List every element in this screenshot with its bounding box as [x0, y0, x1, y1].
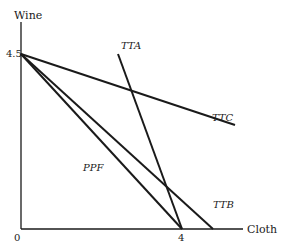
origin-label: 0 [14, 233, 20, 243]
tta-label: TTA [121, 41, 141, 51]
ttb-line [21, 54, 213, 229]
x-tick-4: 4 [178, 233, 184, 243]
ttb-label: TTB [213, 200, 234, 210]
x-axis-label: Cloth [247, 224, 277, 235]
y-axis-label: Wine [14, 10, 42, 21]
chart-canvas [0, 0, 281, 246]
ttc-label: TTC [212, 113, 233, 123]
tta-line [118, 54, 182, 229]
y-tick-4-5: 4.5 [6, 49, 22, 59]
ppf-label: PPF [83, 163, 103, 173]
